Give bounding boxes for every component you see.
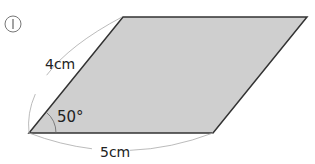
problem-number xyxy=(5,16,21,32)
side-left-label: 4cm xyxy=(45,56,75,72)
angle-label: 50° xyxy=(57,108,84,126)
parallelogram-diagram: 4cm 50° 5cm xyxy=(0,0,315,164)
side-bottom-label: 5cm xyxy=(100,144,130,160)
